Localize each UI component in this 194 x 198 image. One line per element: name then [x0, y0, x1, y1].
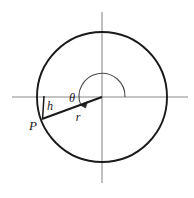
- height-label: h: [47, 99, 53, 113]
- geometry-figure: h θ r P: [0, 0, 194, 198]
- point-p-label: P: [28, 118, 37, 133]
- height-segment: [43, 96, 44, 119]
- angle-label: θ: [69, 91, 75, 105]
- figure-canvas: h θ r P: [0, 0, 194, 198]
- radius-label: r: [76, 110, 81, 124]
